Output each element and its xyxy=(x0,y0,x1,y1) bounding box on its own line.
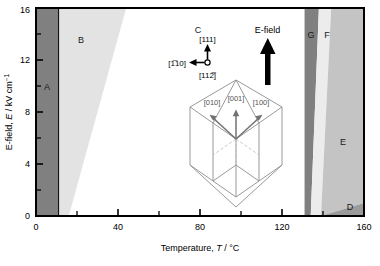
y-axis-title-suffix: / kV cm xyxy=(4,81,14,114)
triad-label-112: [112̅] xyxy=(199,71,217,80)
region-label-B: B xyxy=(78,35,84,45)
x-tick-label-40: 40 xyxy=(113,222,123,232)
cube-axis-label-001: [001] xyxy=(228,94,245,103)
region-label-E: E xyxy=(340,137,346,147)
y-tick-label-16: 16 xyxy=(20,5,30,15)
x-tick-label-80: 80 xyxy=(195,222,205,232)
cube-axis-label-100: [100] xyxy=(253,98,270,107)
region-label-C: C xyxy=(195,25,202,35)
x-axis-title-suffix: / °C xyxy=(222,243,240,253)
y-axis-title-exponent: −1 xyxy=(3,73,10,81)
efield-label: E-field xyxy=(255,25,281,35)
y-tick-label-12: 12 xyxy=(20,55,30,65)
region-label-D: D xyxy=(347,202,354,212)
triad-origin-marker xyxy=(205,60,210,65)
efield-arrow-shaft xyxy=(265,50,271,85)
region-label-G: G xyxy=(307,30,314,40)
y-tick-label-8: 8 xyxy=(25,107,30,117)
x-axis-title-prefix: Temperature, xyxy=(161,243,217,253)
x-axis-title: Temperature, T / °C xyxy=(161,243,240,253)
x-tick-label-160: 160 xyxy=(356,222,371,232)
phase-diagram-chart: [010] [001] [100] E-field [111] [1̅10] [… xyxy=(0,0,380,266)
cube-axis-label-010: [010] xyxy=(204,98,221,107)
triad-label-110: [1̅10] xyxy=(168,59,186,68)
region-label-F: F xyxy=(324,30,330,40)
triad-label-111: [111] xyxy=(199,35,216,44)
region-label-A: A xyxy=(44,82,50,92)
figure-container: [010] [001] [100] E-field [111] [1̅10] [… xyxy=(0,0,380,266)
y-tick-label-4: 4 xyxy=(25,159,30,169)
x-tick-label-120: 120 xyxy=(274,222,289,232)
y-tick-label-0: 0 xyxy=(25,211,30,221)
x-tick-label-0: 0 xyxy=(33,222,38,232)
y-axis-title-prefix: E-field, xyxy=(4,120,14,151)
y-axis-title: E-field, E / kV cm−1 xyxy=(3,73,15,150)
